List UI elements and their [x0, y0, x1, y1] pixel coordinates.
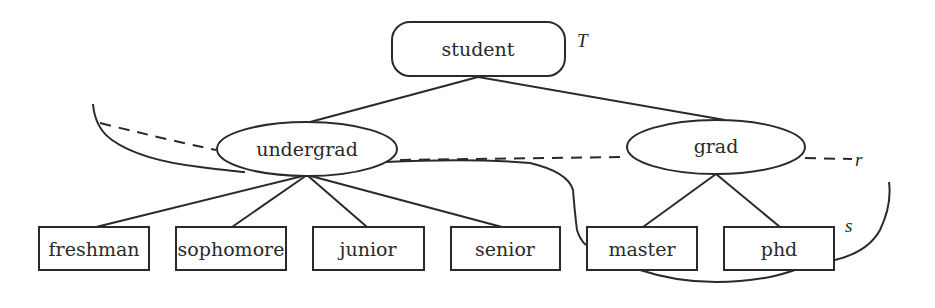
region-s-curve-right	[835, 182, 890, 260]
node-student: student	[392, 22, 565, 76]
node-grad: grad	[627, 120, 805, 174]
region-s-label: s	[845, 215, 852, 236]
node-master: master	[587, 227, 697, 270]
node-senior-label: senior	[475, 238, 536, 260]
edge-undergrad-freshman	[96, 175, 307, 227]
node-sophomore-label: sophomore	[178, 238, 285, 260]
tree-tag-label: T	[577, 30, 589, 51]
region-r-dashed-left	[100, 123, 216, 150]
node-senior: senior	[451, 227, 560, 270]
region-s-curve-left	[93, 104, 245, 172]
edge-grad-master	[643, 174, 716, 227]
hierarchy-diagram: student T undergrad grad freshman sophom…	[0, 0, 935, 308]
edge-grad-phd	[716, 174, 780, 227]
node-freshman-label: freshman	[49, 238, 140, 260]
region-r-dashed-right	[805, 158, 852, 159]
node-junior: junior	[313, 227, 424, 270]
node-junior-label: junior	[338, 238, 398, 260]
node-undergrad-label: undergrad	[256, 138, 358, 160]
node-sophomore: sophomore	[176, 227, 286, 270]
node-phd: phd	[724, 227, 834, 270]
edge-undergrad-sophomore	[232, 175, 307, 227]
node-freshman: freshman	[39, 227, 149, 270]
edge-student-grad	[478, 77, 725, 120]
region-r-label: r	[855, 149, 863, 170]
region-s-curve-bottom	[640, 270, 795, 282]
edge-student-undergrad	[310, 77, 478, 122]
node-phd-label: phd	[761, 238, 798, 260]
diagram-canvas: student T undergrad grad freshman sophom…	[0, 0, 935, 308]
node-grad-label: grad	[694, 135, 739, 157]
node-undergrad: undergrad	[217, 122, 397, 176]
node-student-label: student	[442, 38, 515, 60]
node-master-label: master	[608, 238, 676, 260]
